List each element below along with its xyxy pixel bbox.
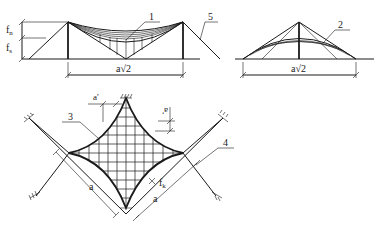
axis-diag-right — [126, 118, 223, 214]
plan-view: a' a' a a fk 3 4 — [24, 92, 234, 221]
axis-diag-left — [29, 118, 126, 214]
label-a-prime-top: a' — [93, 92, 99, 102]
backstay-left — [29, 22, 68, 59]
backstay-right — [183, 22, 220, 59]
label-fn: fn — [6, 24, 13, 37]
label-fs: fs — [6, 42, 12, 55]
elevation-tent: a√2 2 — [235, 19, 374, 78]
callout-4: 4 — [223, 137, 228, 148]
callout-3: 3 — [68, 111, 73, 122]
label-a-right: a — [153, 193, 158, 204]
callout-5: 5 — [208, 11, 213, 22]
label-fk: fk — [159, 177, 166, 190]
cable-net-grid — [60, 95, 190, 210]
label-a-prime-right: a' — [162, 106, 168, 116]
span-label-left: a√2 — [116, 63, 131, 74]
callout-1: 1 — [149, 11, 154, 22]
elevation-saddle: fn fs a√2 1 5 — [6, 11, 220, 78]
callout-2: 2 — [338, 19, 343, 30]
label-a-left: a — [89, 181, 94, 192]
span-label-right: a√2 — [291, 63, 306, 74]
cable-structure-diagram: fn fs a√2 1 5 a — [0, 0, 386, 237]
